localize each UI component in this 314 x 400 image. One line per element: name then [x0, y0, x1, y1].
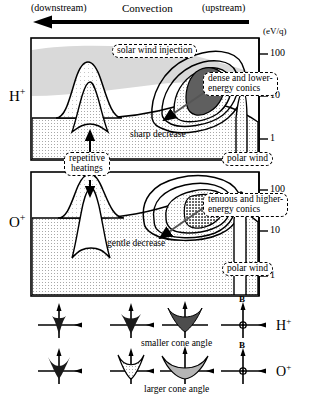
callout-dense-lower-energy-conics: dense and lower-energy conics	[203, 72, 278, 96]
distribution-h-2	[110, 303, 154, 338]
caption-larger-cone-angle: larger cone angle	[144, 384, 209, 394]
upstream-label: (upstream)	[202, 2, 245, 13]
distribution-o-3	[160, 346, 214, 384]
species-upper-sup: +	[20, 86, 26, 97]
conics-upper-line2: energy conics	[208, 83, 260, 93]
species-lower-sup: +	[20, 212, 26, 223]
axis-tick-1-upper: 1	[270, 132, 275, 143]
convection-arrow	[33, 16, 249, 29]
conics-lower-line1: tenuous and higher-	[208, 194, 283, 204]
repetitive-line2: heatings	[71, 163, 103, 173]
callout-polar-wind-lower: polar wind	[222, 262, 273, 276]
figure-root: (downstream) Convection (upstream) (eV/q…	[0, 0, 314, 400]
callout-polar-wind-upper: polar wind	[222, 152, 273, 166]
repetitive-line1: repetitive	[69, 153, 105, 163]
conics-lower-line2: energy conics	[208, 204, 260, 214]
distribution-row-label-lower: O+	[276, 362, 291, 380]
dist-upper-text: H	[276, 318, 286, 333]
b-field-label-upper: B	[239, 294, 245, 304]
downstream-label: (downstream)	[31, 2, 87, 13]
species-label-lower: O+	[9, 212, 25, 231]
axis-tick-10-lower: 10	[270, 224, 280, 235]
distribution-row-lower	[38, 346, 266, 384]
annotation-sharp-decrease: sharp decrease	[130, 129, 186, 139]
lower-panel-plot	[31, 172, 259, 296]
dist-upper-sup: +	[286, 316, 291, 326]
energy-axis-upper	[259, 38, 268, 160]
distribution-o-1	[38, 348, 82, 384]
b-axis-upper	[221, 302, 266, 338]
species-upper-text: H	[9, 88, 20, 104]
b-axis-lower	[221, 348, 266, 384]
dist-lower-text: O	[276, 364, 286, 379]
distribution-o-2	[110, 348, 154, 384]
distribution-h-3	[162, 301, 208, 338]
axis-tick-100-upper: 100	[270, 47, 285, 58]
species-label-upper: H+	[9, 86, 25, 105]
convection-label: Convection	[122, 2, 173, 14]
distribution-row-upper	[38, 301, 266, 338]
species-lower-text: O	[9, 214, 20, 230]
annotation-gentle-decrease: gentle decrease	[107, 238, 165, 248]
distribution-row-label-upper: H+	[276, 316, 291, 334]
conics-upper-line1: dense and lower-	[208, 73, 273, 83]
distribution-h-1	[38, 303, 82, 338]
b-field-label-lower: B	[239, 340, 245, 350]
callout-tenuous-higher-energy-conics: tenuous and higher-energy conics	[203, 193, 288, 217]
energy-axis-lower	[259, 172, 268, 296]
callout-solar-wind-injection: solar wind injection	[112, 44, 197, 58]
caption-smaller-cone-angle: smaller cone angle	[141, 338, 212, 348]
callout-repetitive-heatings: repetitiveheatings	[64, 152, 110, 176]
dist-lower-sup: +	[286, 362, 291, 372]
energy-unit-label: (eV/q)	[263, 26, 287, 36]
